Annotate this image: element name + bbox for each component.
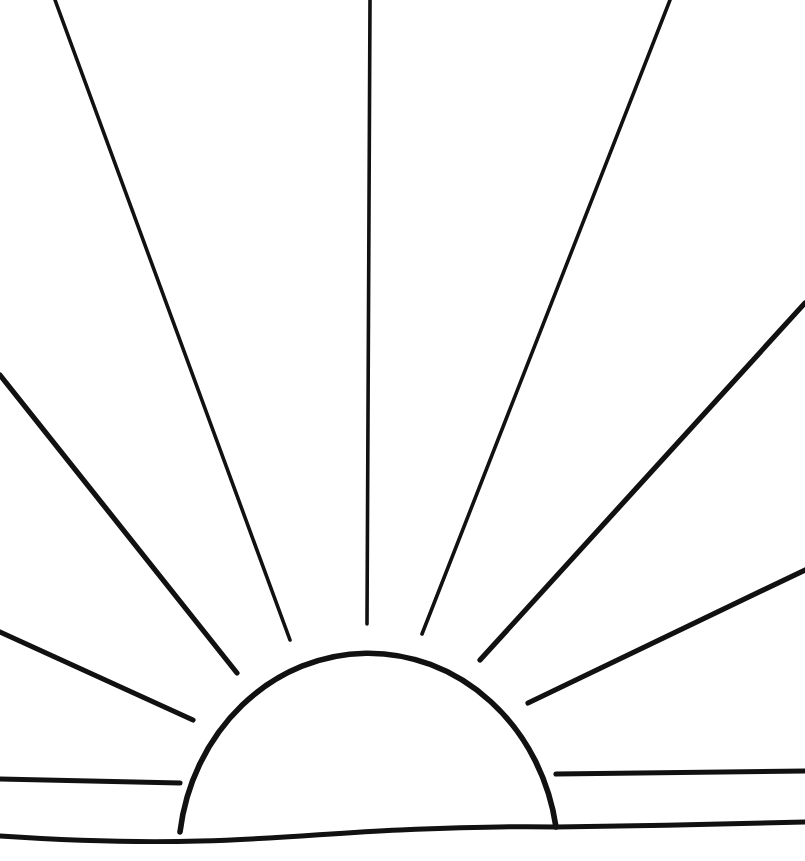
- sunrise-drawing: [0, 0, 805, 861]
- artboard: [0, 0, 805, 861]
- ray-right-horizontal: [556, 771, 805, 774]
